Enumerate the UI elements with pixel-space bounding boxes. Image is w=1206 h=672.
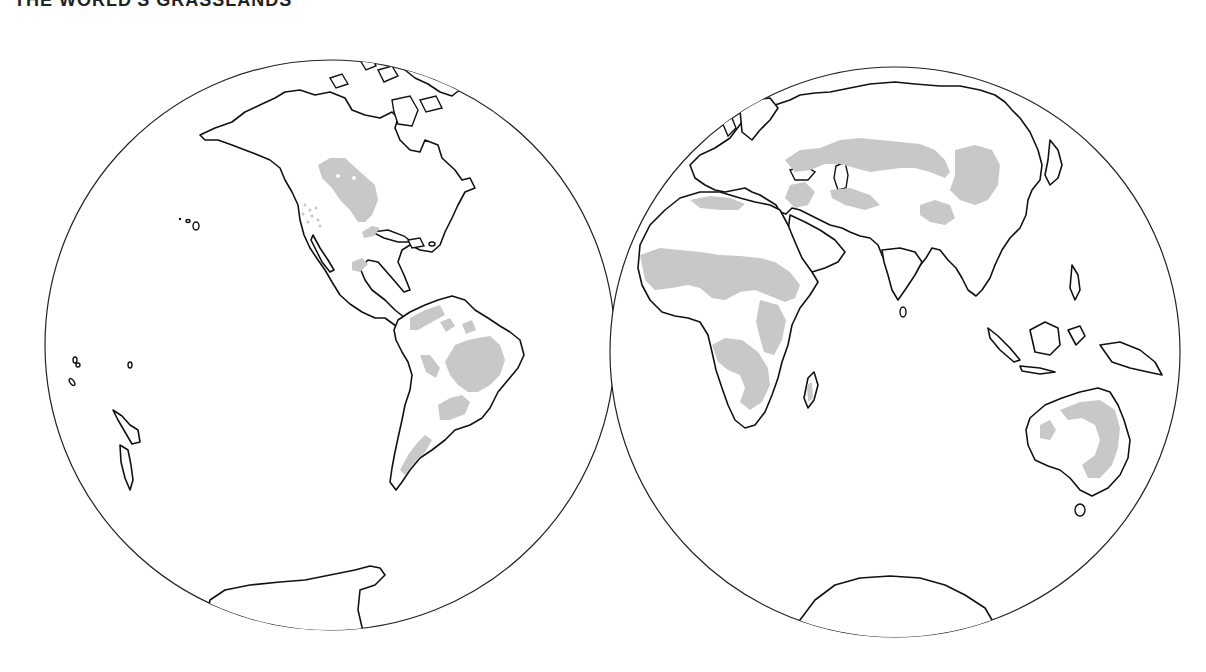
borneo	[1030, 322, 1060, 355]
hawaii-island	[193, 222, 199, 230]
tasmania	[1075, 504, 1085, 516]
western-hemisphere	[45, 52, 615, 650]
hawaii-island	[186, 220, 190, 223]
hawaii-island	[179, 218, 181, 220]
eastern-hemisphere	[610, 67, 1180, 660]
caspian-sea	[834, 162, 848, 190]
puerto-rico	[429, 242, 435, 246]
pacific-island	[128, 362, 132, 368]
pacific-island	[73, 357, 77, 363]
pacific-island	[76, 363, 80, 367]
world-grasslands-map	[0, 0, 1206, 672]
sri-lanka	[900, 307, 906, 317]
